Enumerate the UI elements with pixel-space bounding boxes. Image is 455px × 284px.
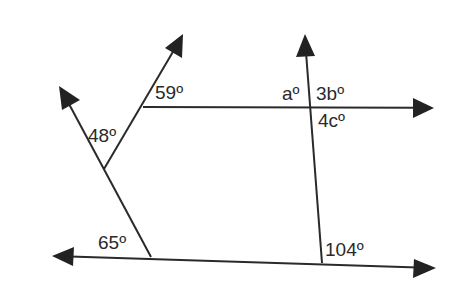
- arrowhead-upper-right-icon: [165, 34, 183, 58]
- arrowhead-left-icon: [52, 247, 74, 266]
- angle-label-59: 59º: [155, 82, 183, 103]
- angle-diagram: 59º 48º 65º 104º aº 3bº 4cº: [0, 0, 455, 284]
- angle-label-3b: 3bº: [316, 83, 344, 104]
- arrowhead-up-icon: [296, 34, 315, 57]
- angle-label-48: 48º: [88, 125, 116, 146]
- angle-label-4c: 4cº: [318, 110, 345, 131]
- angle-label-104: 104º: [325, 239, 364, 260]
- arrowhead-right-icon: [413, 259, 436, 278]
- angle-label-65: 65º: [98, 232, 126, 253]
- arrowhead-right-top-icon: [413, 98, 434, 118]
- vertical-transversal: [296, 34, 322, 263]
- angle-label-a: aº: [282, 83, 300, 104]
